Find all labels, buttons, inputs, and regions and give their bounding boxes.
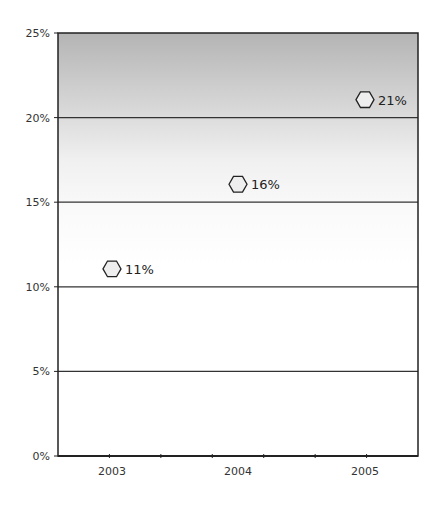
- y-tick-label: 0%: [33, 450, 50, 463]
- chart: 0%5%10%15%20%25% 200320042005 11%16%21%: [0, 0, 441, 505]
- x-tick-label: 2004: [224, 465, 252, 478]
- y-tick-label: 20%: [26, 112, 50, 125]
- data-point: 16%: [229, 176, 280, 192]
- hexagon-marker-icon: [229, 176, 247, 192]
- data-label: 21%: [378, 93, 407, 108]
- y-tick-label: 10%: [26, 281, 50, 294]
- hexagon-marker-icon: [103, 261, 121, 277]
- data-label: 16%: [251, 177, 280, 192]
- y-tick-label: 15%: [26, 196, 50, 209]
- x-axis-labels: 200320042005: [98, 465, 379, 478]
- y-tick-label: 25%: [26, 27, 50, 40]
- x-tick-label: 2003: [98, 465, 126, 478]
- data-label: 11%: [125, 262, 154, 277]
- data-point: 21%: [356, 92, 407, 108]
- y-tick-label: 5%: [33, 365, 50, 378]
- y-axis-labels: 0%5%10%15%20%25%: [26, 27, 58, 463]
- hexagon-marker-icon: [356, 92, 374, 108]
- data-point: 11%: [103, 261, 154, 277]
- x-tick-label: 2005: [351, 465, 379, 478]
